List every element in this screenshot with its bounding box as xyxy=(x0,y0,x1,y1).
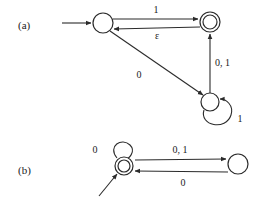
edge-label-a-1: 1 xyxy=(154,4,159,15)
state-b-right[interactable] xyxy=(228,154,248,174)
edge-label-b-0: 0 xyxy=(181,177,186,188)
state-b-accept-inner-ring xyxy=(118,160,130,172)
edge-label-a-0: 0 xyxy=(137,69,142,80)
edge-label-a-epsilon: ε xyxy=(155,30,159,41)
edge-label-b-01: 0, 1 xyxy=(173,144,188,155)
state-a-start[interactable] xyxy=(93,13,113,33)
edge-label-b-selfloop-0: 0 xyxy=(93,144,98,155)
edge-label-a-01: 0, 1 xyxy=(215,57,230,68)
finite-automata-figure: (a) 1 ε 0 0, 1 1 (b) 0, 1 0 xyxy=(0,0,259,201)
state-a-accept-inner-ring xyxy=(203,15,217,29)
state-a-lower[interactable] xyxy=(201,93,219,111)
panel-a-label: (a) xyxy=(18,19,31,32)
panel-b-label: (b) xyxy=(18,164,31,177)
edge-label-a-selfloop-1: 1 xyxy=(238,113,243,124)
